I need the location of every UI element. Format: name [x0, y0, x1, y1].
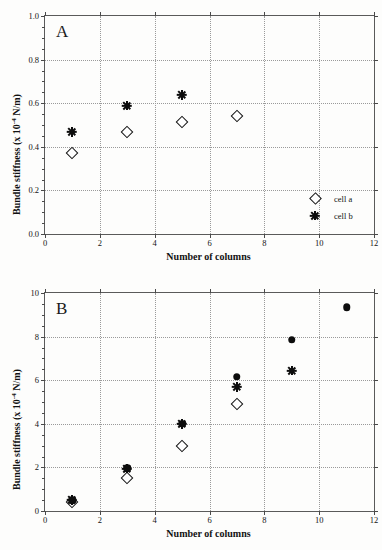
y-axis-minor-tick [42, 500, 45, 501]
y-axis-minor-tick [42, 435, 45, 436]
open-diamond-marker-icon [121, 126, 134, 139]
y-axis-tick-right [374, 147, 378, 148]
y-axis-tick-label: 0.8 [28, 55, 39, 65]
y-axis-tick-label: 0.2 [28, 185, 39, 195]
open-diamond-marker-icon [231, 398, 244, 411]
panel-b-x-axis-title: Number of columns [44, 528, 373, 539]
x-axis-tick-label: 10 [315, 238, 324, 248]
asterisk-marker-icon [122, 100, 132, 110]
data-point [287, 365, 297, 375]
panel-b-plot-area: 0246810024681012 [44, 292, 375, 512]
y-axis-tick [41, 380, 45, 381]
x-axis-tick-label: 6 [207, 238, 211, 248]
panel-a-legend: cell acell b [307, 190, 353, 224]
y-axis-tick [41, 337, 45, 338]
x-gridline [100, 16, 101, 234]
x-axis-tick-top [210, 12, 211, 16]
x-axis-tick-top [374, 12, 375, 16]
filled-circle-marker-icon [69, 496, 77, 504]
data-point [232, 112, 241, 121]
y-axis-minor-tick [42, 315, 45, 316]
x-axis-tick-label: 12 [370, 515, 379, 525]
y-axis-minor-tick [42, 326, 45, 327]
data-point [123, 474, 132, 483]
y-axis-tick [41, 467, 45, 468]
data-point [233, 373, 241, 381]
open-diamond-marker-icon [309, 192, 322, 205]
y-axis-title-pre: Bundle stiffness (x 10 [11, 399, 22, 490]
y-axis-minor-tick [42, 114, 45, 115]
y-axis-tick-right [374, 16, 378, 17]
data-point [124, 465, 132, 473]
y-axis-tick [41, 424, 45, 425]
data-point [178, 441, 187, 450]
x-axis-tick-top [45, 289, 46, 293]
x-axis-tick-label: 8 [262, 238, 266, 248]
y-axis-minor-tick [42, 223, 45, 224]
x-gridline [264, 293, 265, 511]
y-axis-minor-tick [42, 391, 45, 392]
y-axis-tick-right [374, 103, 378, 104]
y-axis-minor-tick [42, 71, 45, 72]
y-axis-minor-tick [42, 158, 45, 159]
x-gridline [155, 16, 156, 234]
panel-a-letter: A [56, 22, 68, 42]
y-axis-tick-right [374, 337, 378, 338]
y-axis-tick-right [374, 467, 378, 468]
legend-label: cell b [334, 211, 353, 221]
panel-b: Bundle stiffness (x 10-4 N/m) 0246810024… [0, 275, 382, 550]
y-axis-minor-tick [42, 369, 45, 370]
y-axis-tick-label: 2 [35, 462, 39, 472]
filled-circle-marker-icon [233, 373, 241, 381]
asterisk-marker-icon [310, 211, 320, 221]
y-axis-tick-right [374, 380, 378, 381]
x-axis-tick-label: 2 [98, 238, 102, 248]
open-diamond-marker-icon [231, 110, 244, 123]
data-point [67, 127, 77, 137]
x-axis-tick-label: 8 [262, 515, 266, 525]
y-axis-tick-right [374, 424, 378, 425]
x-axis-tick-top [45, 12, 46, 16]
y-axis-tick [41, 60, 45, 61]
open-diamond-marker-icon [176, 115, 189, 128]
y-axis-minor-tick [42, 457, 45, 458]
y-axis-title-post: N/m) [11, 369, 22, 393]
asterisk-marker-icon [232, 382, 242, 392]
y-axis-tick-label: 0 [35, 506, 39, 516]
data-point [232, 400, 241, 409]
x-axis-tick-top [319, 289, 320, 293]
x-axis-tick-top [155, 12, 156, 16]
data-point [177, 90, 187, 100]
y-axis-minor-tick [42, 38, 45, 39]
y-axis-minor-tick [42, 125, 45, 126]
data-point [68, 148, 77, 157]
y-axis-tick [41, 293, 45, 294]
y-axis-minor-tick [42, 92, 45, 93]
y-axis-minor-tick [42, 201, 45, 202]
y-axis-minor-tick [42, 212, 45, 213]
y-axis-minor-tick [42, 446, 45, 447]
y-axis-tick-right [374, 293, 378, 294]
x-axis-tick-label: 0 [43, 238, 47, 248]
data-point [288, 336, 296, 344]
y-axis-tick-label: 0.6 [28, 98, 39, 108]
x-axis-tick-top [319, 12, 320, 16]
asterisk-marker-icon [287, 365, 297, 375]
panel-b-y-axis-title: Bundle stiffness (x 10-4 N/m) [10, 369, 22, 490]
y-axis-tick-right [374, 60, 378, 61]
y-axis-minor-tick [42, 358, 45, 359]
asterisk-marker-icon [67, 127, 77, 137]
legend-marker [307, 210, 323, 222]
asterisk-marker-icon [177, 90, 187, 100]
data-point [178, 420, 186, 428]
y-axis-title-post: N/m) [11, 94, 22, 118]
x-axis-tick-label: 12 [370, 238, 379, 248]
y-axis-tick [41, 16, 45, 17]
legend-item: cell a [307, 190, 353, 207]
x-gridline [319, 293, 320, 511]
data-point [123, 127, 132, 136]
y-axis-minor-tick [42, 81, 45, 82]
y-axis-minor-tick [42, 413, 45, 414]
data-point [122, 100, 132, 110]
y-axis-tick-label: 0.0 [28, 229, 39, 239]
